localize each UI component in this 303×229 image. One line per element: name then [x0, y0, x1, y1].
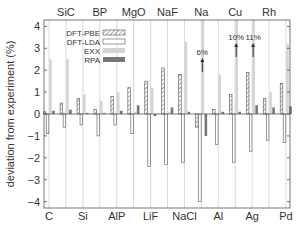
x-label-top: Cu	[228, 6, 242, 18]
x-label-bottom: Si	[78, 210, 88, 222]
bar-exx-sic	[66, 59, 69, 114]
y-tick-label: 2	[34, 64, 40, 76]
bar-dft-lda-naf	[165, 114, 168, 164]
y-tick-label: −3	[27, 174, 40, 186]
bar-exx-lif	[151, 88, 154, 114]
bar-exx-rh	[269, 92, 272, 114]
bar-exx-si	[83, 94, 86, 114]
bar-exx-pd	[286, 44, 289, 114]
legend-label: DFT-PBE	[66, 29, 100, 38]
y-tick-label: 0	[34, 108, 40, 120]
annotation-label: 11%	[245, 33, 260, 42]
legend-label: RPA	[84, 56, 101, 65]
legend-swatch	[103, 39, 125, 44]
bar-rpa-mgo	[137, 105, 140, 114]
y-axis-label: deviation from experiment (%)	[4, 41, 16, 188]
bar-dft-pbe-ag	[246, 72, 249, 114]
bar-exx-alp	[117, 92, 120, 114]
bar-dft-pbe-alp	[111, 96, 114, 114]
bar-dft-lda-alp	[114, 114, 117, 125]
x-label-top: BP	[92, 6, 107, 18]
bar-dft-pbe-cu	[229, 94, 232, 114]
y-tick-label: −4	[27, 196, 40, 208]
bar-dft-pbe-al	[212, 110, 215, 114]
bar-dft-pbe-sic	[60, 103, 63, 114]
bar-dft-pbe-naf	[162, 68, 165, 114]
x-label-bottom: C	[45, 210, 53, 222]
y-tick-label: 1	[34, 86, 40, 98]
bar-dft-pbe-nacl	[179, 75, 182, 114]
bar-dft-lda-si	[80, 114, 83, 125]
legend: DFT-PBEDFT-LDAEXXRPA	[66, 29, 125, 65]
bar-dft-lda-na	[199, 114, 202, 202]
legend-label: EXX	[84, 47, 101, 56]
bar-rpa-pd	[289, 106, 292, 114]
legend-swatch	[103, 30, 125, 35]
bar-rpa-sic	[69, 110, 72, 114]
bar-dft-lda-rh	[266, 114, 269, 140]
bar-exx-al	[218, 75, 221, 114]
bar-dft-lda-cu	[232, 114, 235, 162]
x-label-bottom: NaCl	[172, 210, 196, 222]
bar-dft-pbe-na	[196, 114, 199, 127]
bar-dft-pbe-mgo	[128, 88, 131, 114]
bar-chart: −4−3−2−101234 CSiCSiBPAlPMgOLiFNaFNaClNa…	[0, 0, 303, 229]
bar-dft-lda-al	[215, 114, 218, 145]
x-label-bottom: AlP	[108, 210, 125, 222]
bar-dft-pbe-pd	[280, 83, 283, 114]
y-tick-label: 4	[34, 20, 40, 32]
bar-dft-pbe-si	[77, 99, 80, 114]
bar-rpa-naf	[171, 107, 174, 114]
bar-dft-lda-ag	[249, 114, 252, 151]
y-tick-label: −1	[27, 130, 40, 142]
bar-exx-bp	[100, 101, 103, 114]
bar-dft-lda-nacl	[182, 114, 185, 162]
x-label-top: NaF	[157, 6, 178, 18]
y-tick-label: −2	[27, 152, 40, 164]
x-label-top: SiC	[57, 6, 75, 18]
bar-dft-lda-pd	[283, 114, 286, 142]
annotation-label: 6%	[197, 48, 209, 57]
annotation-label: 10%	[228, 33, 244, 42]
bar-rpa-ag	[255, 105, 258, 114]
x-label-bottom: Pd	[279, 210, 292, 222]
bar-dft-pbe-bp	[94, 110, 97, 114]
bar-dft-pbe-lif	[145, 81, 148, 114]
bar-rpa-c	[52, 111, 55, 114]
legend-label: DFT-LDA	[67, 38, 101, 47]
annotations: 6%10%11%	[197, 33, 261, 72]
x-label-top: Rh	[262, 6, 276, 18]
bar-exx-nacl	[185, 42, 188, 114]
bar-dft-lda-bp	[97, 114, 100, 136]
bar-rpa-rh	[272, 107, 275, 114]
x-label-top: MgO	[122, 6, 146, 18]
bar-dft-lda-sic	[63, 114, 66, 127]
bar-dft-lda-c	[46, 114, 49, 134]
x-label-bottom: Ag	[245, 210, 258, 222]
chart-canvas: −4−3−2−101234 CSiCSiBPAlPMgOLiFNaFNaClNa…	[0, 0, 303, 229]
bar-dft-lda-lif	[148, 114, 151, 167]
legend-swatch	[103, 48, 125, 53]
x-label-bottom: Al	[213, 210, 223, 222]
y-tick-label: 3	[34, 42, 40, 54]
x-label-top: Na	[194, 6, 209, 18]
bar-dft-lda-mgo	[131, 114, 134, 134]
bar-rpa-na	[205, 114, 208, 136]
bar-dft-pbe-rh	[263, 99, 266, 114]
bar-rpa-alp	[120, 111, 123, 114]
x-label-bottom: LiF	[143, 210, 159, 222]
legend-swatch	[103, 57, 125, 62]
bar-exx-c	[49, 59, 52, 114]
